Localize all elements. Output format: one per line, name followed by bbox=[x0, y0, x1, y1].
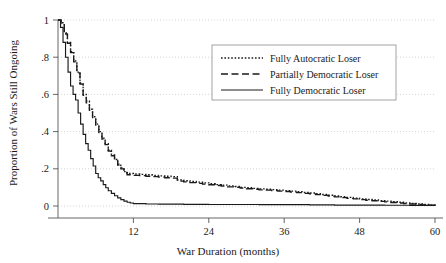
y-tick-label: 0 bbox=[44, 201, 49, 212]
legend: Fully Autocratic LoserPartially Democrat… bbox=[212, 45, 396, 100]
y-tick-label: 1 bbox=[44, 15, 49, 26]
y-tick-label: .2 bbox=[41, 163, 49, 174]
survival-curve-chart: 1224364860 0.2.4.6.81 War Duration (mont… bbox=[0, 0, 446, 263]
chart-canvas: 1224364860 0.2.4.6.81 War Duration (mont… bbox=[0, 0, 446, 263]
y-tick-label: .8 bbox=[41, 52, 49, 63]
y-tick-label: .4 bbox=[41, 126, 50, 137]
legend-label: Fully Democratic Loser bbox=[270, 85, 366, 96]
x-tick-label: 36 bbox=[279, 226, 290, 237]
x-axis-label: War Duration (months) bbox=[177, 245, 280, 258]
y-tick-label: .6 bbox=[41, 89, 49, 100]
legend-label: Partially Democratic Loser bbox=[270, 69, 379, 80]
x-tick-label: 60 bbox=[430, 226, 441, 237]
x-tick-label: 24 bbox=[204, 226, 215, 237]
y-axis-label: Proportion of Wars Still Ongoing bbox=[7, 39, 19, 186]
legend-label: Fully Autocratic Loser bbox=[270, 53, 361, 64]
x-tick-label: 12 bbox=[128, 226, 139, 237]
x-tick-label: 48 bbox=[354, 226, 365, 237]
